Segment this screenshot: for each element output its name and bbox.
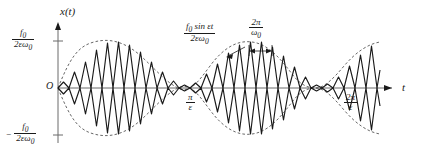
y-axis-label: x(t) bbox=[60, 5, 75, 17]
x-tick-label-first-node: π ε bbox=[186, 93, 195, 112]
x-axis bbox=[58, 85, 392, 91]
resonance-beat-figure: x(t) t O f0 2εω0 − f0 2εω0 f0 sin εt 2εω… bbox=[0, 0, 422, 163]
envelope-lower bbox=[58, 86, 380, 135]
origin-label: O bbox=[46, 80, 53, 91]
y-tick-label-upper: f0 2εω0 bbox=[12, 28, 34, 52]
y-tick-label-lower: − f0 2εω0 bbox=[6, 122, 36, 146]
envelope-equation-label: f0 sin εt 2εω0 bbox=[184, 22, 215, 46]
period-label: 2π ω0 bbox=[249, 18, 263, 40]
x-tick-label-second-node: 2π ε bbox=[344, 93, 357, 112]
envelope-upper bbox=[58, 40, 380, 89]
x-axis-label: t bbox=[402, 81, 405, 93]
